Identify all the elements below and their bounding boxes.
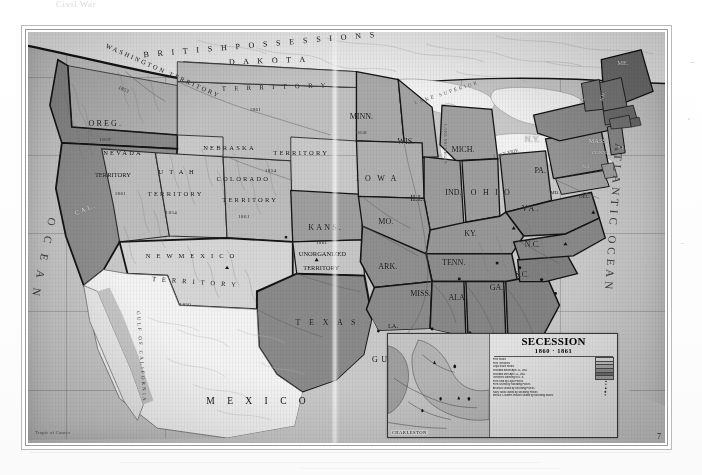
label-colorado-territory-year: 1861 [238, 214, 250, 219]
label-lake-michigan: LAKE MICHIGAN [443, 124, 448, 164]
legend-title: SECESSION [493, 336, 615, 348]
label-nevada-territory-2: TERRITORY [95, 171, 131, 178]
legend-row: Navy Yards seized by Seceding Forces ✚ [493, 391, 615, 394]
label-nebraska-territory-year: 1854 [265, 168, 277, 173]
label-alabama: ALA. [448, 293, 466, 302]
legend-row: Territories adhering to U. S. [493, 376, 615, 379]
label-rhode-island: R.I. [617, 145, 625, 150]
label-maine: ME. [617, 59, 628, 66]
paper-bleed-line [120, 462, 540, 463]
legend-row-label: Free States [493, 358, 596, 361]
scanned-page: Civil War [0, 0, 702, 475]
label-iowa: I O W A [356, 174, 398, 183]
label-nevada-territory-year: 1861 [115, 191, 127, 196]
map-canvas[interactable]: B R I T I S H P O S S E S S I O N S M E … [28, 32, 665, 443]
label-mexico: M E X I C O [206, 396, 310, 406]
label-utah-territory-2: TERRITORY [148, 190, 204, 197]
label-delaware: DEL. [579, 194, 590, 199]
legend-row-label: Seceded before April 15, 1861 [493, 369, 596, 372]
legend-row-label: Loyal Slave States [493, 365, 596, 368]
label-wisconsin: WIS. [397, 137, 414, 146]
label-south-carolina: S.C. [515, 270, 529, 279]
label-north-carolina: N.C. [525, 240, 540, 249]
label-michigan: MICH. [452, 145, 475, 154]
paper-bleed-line [300, 468, 560, 469]
charleston-harbor-geometry [388, 334, 489, 437]
legend-row-label: Navy Yards seized by Seceding Forces [493, 391, 598, 394]
label-pennsylvania: PA. [534, 166, 546, 175]
label-kentucky: KY. [464, 229, 477, 238]
label-utah-territory: U T A H [159, 168, 196, 175]
charleston-city-label: CHARLESTON [391, 430, 428, 435]
paper-bleed-line [30, 452, 670, 453]
label-utah-territory-year: 1854 [166, 210, 178, 215]
label-missouri: MO. [378, 217, 393, 226]
label-new-mexico-territory-year: 1850 [180, 302, 192, 307]
scan-speck [688, 118, 690, 120]
label-unorganized-territory: UNORGANIZED [299, 250, 346, 257]
legend-row-label: Arsenals seized by Seceding Forces [493, 387, 598, 390]
charleston-harbor-inset[interactable]: CHARLESTON [388, 334, 490, 437]
label-mississippi: MISS. [410, 289, 431, 298]
legend-row-label: Territories adhering to U. S. [493, 376, 596, 379]
legend-rows: Free States Free Territories Loyal Slave… [493, 358, 615, 398]
label-illinois: ILL. [410, 194, 424, 203]
legend-row-label: Forts held by Loyal Forces [493, 380, 598, 383]
label-minnesota: MINN. [350, 112, 373, 121]
map-plate-inner-frame: B R I T I S H P O S S E S S I O N S M E … [25, 29, 668, 446]
label-oregon: OREG. [89, 119, 124, 128]
label-louisiana: LA. [388, 322, 398, 329]
secession-legend-inset[interactable]: CHARLESTON SECESSION 1860 · 1861 Free St… [387, 333, 619, 438]
plate-number: 7 [657, 432, 661, 441]
legend-row: Arsenals seized by Seceding Forces ■ [493, 387, 615, 390]
legend-years: 1860 · 1861 [493, 347, 615, 354]
legend-row-label: Mints & Customs Houses seized by Secedin… [493, 394, 598, 397]
label-nevada-territory: NEVADA [103, 149, 143, 156]
legend-body: SECESSION 1860 · 1861 Free States Free T… [490, 334, 618, 437]
label-nebraska-territory-2: TERRITORY [273, 149, 329, 156]
scan-speck [690, 62, 695, 63]
legend-row-label: Seceded after April 15, 1861 [493, 373, 596, 376]
scan-top-caption: Civil War [56, 0, 96, 9]
legend-row: Forts held by Loyal Forces ▲ [493, 380, 615, 383]
label-unorganized-territory-2: TERRITORY [303, 264, 339, 271]
scan-speck [681, 243, 684, 244]
legend-row: Mints & Customs Houses seized by Secedin… [493, 394, 615, 397]
label-colorado-territory-2: TERRITORY [222, 196, 278, 203]
label-massachusetts: MASS. [589, 137, 608, 144]
label-dakota-territory-year: 1861 [250, 107, 262, 112]
label-new-jersey: N.J. [582, 164, 590, 169]
label-tennessee: TENN. [442, 258, 465, 267]
label-maryland: MD. [550, 190, 559, 195]
label-new-york: N.Y. [525, 135, 540, 144]
map-plate-frame: B R I T I S H P O S S E S S I O N S M E … [21, 25, 672, 450]
legend-mark-mint-seized: ✦ [597, 394, 614, 397]
label-arkansas: ARK. [378, 262, 397, 271]
label-minnesota-year: 1858 [355, 130, 367, 135]
legend-row-label: Forts seized by Seceding Forces [493, 383, 598, 386]
label-kansas-year: 1861 [316, 240, 328, 245]
label-connecticut: CONN. [592, 150, 607, 155]
label-kansas: KANS. [308, 223, 343, 232]
label-texas: T E X A S [296, 318, 359, 327]
label-oregon-year: 1859 [99, 137, 111, 142]
label-ohio: O H I O [471, 188, 512, 197]
label-new-mexico-territory: N E W M E X I C O [146, 252, 237, 259]
label-nebraska-territory: NEBRASKA [203, 144, 256, 151]
label-colorado-territory: COLORADO [217, 175, 271, 182]
scale-note: Tropic of Cancer [35, 430, 70, 435]
label-indiana: IND. [445, 188, 461, 197]
label-georgia: GA. [490, 283, 504, 292]
legend-row-label: Free Territories [493, 362, 596, 365]
label-virginia: VA. [522, 204, 541, 213]
legend-row: Forts seized by Seceding Forces ● [493, 383, 615, 386]
